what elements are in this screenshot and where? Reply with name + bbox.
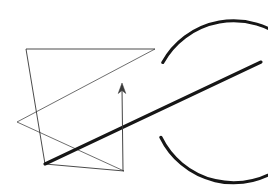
geometric-figure-canvas: Geometric line figure with circle, chord…	[0, 0, 268, 192]
figure-background	[0, 0, 268, 192]
